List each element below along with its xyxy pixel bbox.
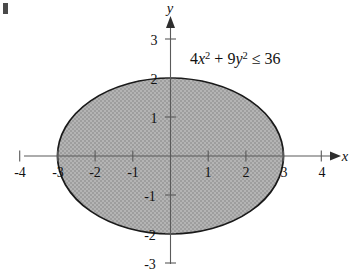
coordinate-plane-svg: -4 -3 -2 -1 1 2 3 4 3 2 1 -1 -2 -3 x y 4… bbox=[0, 0, 351, 271]
ellipse-inequality-figure: -4 -3 -2 -1 1 2 3 4 3 2 1 -1 -2 -3 x y 4… bbox=[0, 0, 351, 271]
x-tick-label--2: -2 bbox=[89, 165, 101, 180]
eq-constant: 36 bbox=[265, 50, 281, 67]
x-tick-label-4: 4 bbox=[319, 165, 326, 180]
x-tick-label-2: 2 bbox=[243, 165, 250, 180]
eq-relation-sign: ≤ bbox=[252, 50, 261, 67]
corner-artifact-mark bbox=[3, 3, 8, 14]
x-tick-label-1: 1 bbox=[205, 165, 212, 180]
x-tick-label--4: -4 bbox=[14, 165, 26, 180]
y-tick-label--3: -3 bbox=[144, 257, 156, 271]
eq-coef-y: 9 bbox=[227, 50, 235, 67]
x-axis-label: x bbox=[341, 148, 349, 164]
y-tick-label-2: 2 bbox=[151, 72, 158, 87]
y-axis-label: y bbox=[165, 0, 174, 16]
eq-coef-x: 4 bbox=[190, 50, 198, 67]
eq-plus-sign: + bbox=[214, 50, 223, 67]
y-tick-label--2: -2 bbox=[144, 228, 156, 243]
y-tick-label-3: 3 bbox=[151, 33, 158, 48]
x-tick-label--3: -3 bbox=[52, 165, 64, 180]
x-tick-label--1: -1 bbox=[127, 165, 139, 180]
inequality-annotation: 4x2 + 9y2 ≤ 36 bbox=[190, 50, 281, 68]
y-tick-label--1: -1 bbox=[144, 189, 156, 204]
eq-var-x: x bbox=[197, 50, 205, 67]
y-tick-label-1: 1 bbox=[151, 111, 158, 126]
x-tick-label-3: 3 bbox=[281, 165, 288, 180]
